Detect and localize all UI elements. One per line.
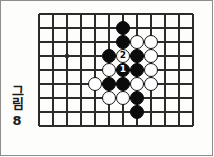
go-diagram-figure: 그림 8 21 — [0, 0, 214, 157]
go-board[interactable]: 21 — [38, 13, 194, 127]
star-point — [65, 54, 70, 59]
figure-caption: 그림 8 — [6, 84, 28, 128]
go-stone-black-1[interactable]: 1 — [116, 63, 131, 78]
figure-caption-number: 8 — [6, 114, 28, 127]
go-stone-white-2[interactable]: 2 — [116, 49, 131, 64]
figure-caption-word: 그림 — [10, 84, 23, 110]
stone-move-number: 2 — [117, 50, 130, 63]
stone-move-number: 1 — [117, 64, 130, 77]
